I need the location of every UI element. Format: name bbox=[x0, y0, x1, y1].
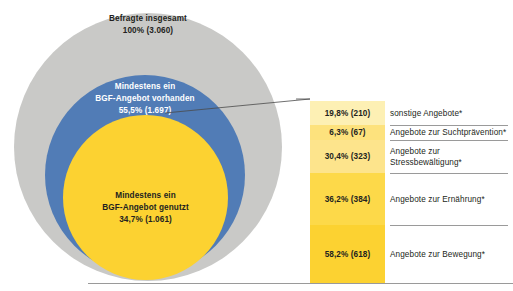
bar-segment: 19,8% (210) bbox=[310, 101, 385, 125]
bar-segment: 30,4% (323) bbox=[310, 140, 385, 173]
bar-segment-value: 36,2% (384) bbox=[325, 195, 371, 204]
bar-segment-value: 6,3% (67) bbox=[329, 128, 365, 137]
bar-legend-label: Angebote zur Suchtprävention* bbox=[390, 127, 506, 138]
bar-legend-row: sonstige Angebote* bbox=[390, 101, 513, 125]
infographic-canvas: Befragte insgesamt 100% (3.060) Mindeste… bbox=[0, 0, 513, 291]
bar-legend-row: Angebote zurStressbewältigung* bbox=[390, 140, 513, 173]
bar-legend-row: Angebote zur Ernährung* bbox=[390, 173, 513, 225]
bar-legend-label: Angebote zur Ernährung* bbox=[390, 194, 485, 205]
bar-legend-label: sonstige Angebote* bbox=[390, 108, 462, 119]
bar-legend-label: Angebote zur Bewegung* bbox=[390, 249, 485, 260]
bar-legend-row: Angebote zur Bewegung* bbox=[390, 225, 513, 283]
breakdown-bar-legend: sonstige Angebote*Angebote zur Suchtpräv… bbox=[390, 101, 513, 283]
bar-segment-value: 30,4% (323) bbox=[325, 152, 371, 161]
bar-legend-label: Angebote zur bbox=[390, 147, 440, 156]
bar-segment: 36,2% (384) bbox=[310, 173, 385, 225]
bar-segment-value: 19,8% (210) bbox=[325, 109, 371, 118]
bar-segment: 6,3% (67) bbox=[310, 125, 385, 140]
bar-legend-label-line2: Stressbewältigung* bbox=[390, 158, 462, 167]
bar-legend-row: Angebote zur Suchtprävention* bbox=[390, 125, 513, 140]
bar-segment: 58,2% (618) bbox=[310, 225, 385, 283]
bar-legend-label-wrap: Angebote zurStressbewältigung* bbox=[390, 146, 462, 168]
bar-segment-value: 58,2% (618) bbox=[325, 250, 371, 259]
chart-baseline bbox=[88, 283, 513, 284]
breakdown-bar: 19,8% (210)6,3% (67)30,4% (323)36,2% (38… bbox=[310, 101, 385, 283]
